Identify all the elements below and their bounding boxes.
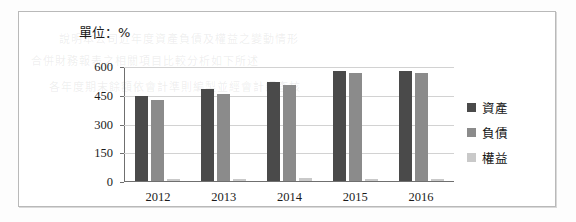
y-tick-label-0: 0	[107, 175, 113, 190]
bar-2014-資產	[267, 82, 280, 181]
x-tick-label-2015: 2015	[343, 190, 368, 205]
bar-2014-負債	[283, 85, 296, 181]
y-tick-label-600: 600	[94, 60, 113, 75]
bar-2016-權益	[431, 179, 444, 181]
bar-2015-權益	[365, 179, 378, 181]
x-tick-label-2013: 2013	[211, 190, 236, 205]
y-tick-label-450: 450	[94, 88, 113, 103]
plot-area: 600 450 300 150 0 20122013201420152016	[124, 67, 454, 182]
legend-swatch-icon	[467, 153, 476, 162]
bar-group: 2015	[322, 67, 388, 181]
bar-group: 2014	[257, 67, 323, 181]
y-tick-450: 450	[120, 96, 124, 97]
legend-swatch-icon	[467, 103, 476, 112]
legend-swatch-icon	[467, 128, 476, 137]
chart-figure-frame: 說明本公司近年度資產負債及權益之變動情形 合併財務報表之相關項目比較分析如下所述…	[18, 11, 556, 207]
legend-label: 負債	[482, 123, 508, 142]
bar-group: 2016	[388, 67, 454, 181]
bar-2014-權益	[299, 178, 312, 181]
bar-group: 2012	[125, 67, 191, 181]
bar-2013-負債	[217, 94, 230, 181]
bar-group: 2013	[191, 67, 257, 181]
bar-2012-負債	[151, 100, 164, 181]
legend-label: 權益	[482, 148, 508, 167]
bar-2016-負債	[415, 73, 428, 181]
y-tick-600: 600	[120, 67, 124, 68]
y-tick-label-300: 300	[94, 117, 113, 132]
legend-item-資產: 資產	[467, 98, 508, 117]
y-tick-300: 300	[120, 125, 124, 126]
y-tick-0: 0	[120, 182, 124, 183]
legend-item-負債: 負債	[467, 123, 508, 142]
bar-2015-負債	[349, 73, 362, 181]
bar-2012-資產	[135, 96, 148, 182]
bar-2015-資產	[333, 71, 346, 181]
legend-label: 資產	[482, 98, 508, 117]
bar-2016-資產	[399, 71, 412, 181]
bar-groups: 20122013201420152016	[125, 67, 454, 181]
x-tick-label-2012: 2012	[145, 190, 170, 205]
chart-legend: 資產負債權益	[467, 98, 508, 167]
scanned-page: 說明本公司近年度資產負債及權益之變動情形 合併財務報表之相關項目比較分析如下所述…	[0, 0, 576, 222]
y-tick-150: 150	[120, 153, 124, 154]
x-tick-label-2016: 2016	[409, 190, 434, 205]
bleed-line-2: 合併財務報表之相關項目比較分析如下所述	[31, 52, 259, 68]
x-axis-line	[124, 181, 454, 182]
x-tick-label-2014: 2014	[277, 190, 302, 205]
bar-2013-權益	[233, 179, 246, 181]
legend-item-權益: 權益	[467, 148, 508, 167]
bar-2013-資產	[201, 89, 214, 181]
bar-2012-權益	[167, 179, 180, 181]
y-tick-label-150: 150	[94, 146, 113, 161]
unit-caption: 單位：%	[79, 22, 130, 41]
